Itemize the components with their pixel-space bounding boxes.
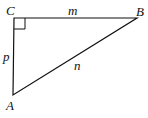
side-label-p: p	[2, 49, 10, 64]
side-label-m: m	[68, 3, 77, 18]
vertex-label-a: A	[5, 98, 14, 113]
vertex-label-b: B	[136, 4, 144, 19]
right-angle-marker-icon	[14, 18, 25, 29]
triangle-diagram: C B A m p n	[0, 0, 148, 118]
vertex-label-c: C	[6, 3, 15, 18]
side-label-n: n	[74, 58, 81, 73]
triangle	[13, 18, 137, 95]
